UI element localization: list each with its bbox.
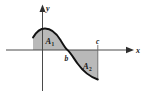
region-label-a1-subscript: 1 xyxy=(52,41,55,47)
region-label-a2-subscript: 2 xyxy=(89,66,92,72)
point-label-b: b xyxy=(65,54,69,63)
point-label-c: c xyxy=(96,37,100,46)
region-label-a1-base: A xyxy=(45,36,52,46)
signed-area-diagram: y x A 1 A 2 b c xyxy=(0,0,145,102)
x-axis-label: x xyxy=(135,46,140,55)
y-axis-label: y xyxy=(45,4,50,13)
figure-container: y x A 1 A 2 b c xyxy=(0,0,145,102)
region-label-a2-base: A xyxy=(82,61,89,71)
